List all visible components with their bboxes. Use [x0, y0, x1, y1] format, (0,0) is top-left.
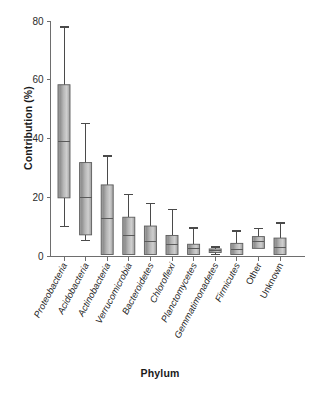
- box-body: [101, 185, 113, 255]
- box-body: [80, 163, 92, 235]
- boxplot-item: [166, 209, 178, 254]
- boxplot-item: [123, 194, 135, 254]
- boxplot-figure: Contribution (%) Phylum 020406080 Proteo…: [0, 0, 320, 393]
- y-tick-label: 80: [32, 16, 44, 27]
- caption-strip: [0, 383, 320, 393]
- boxplot-canvas: 020406080 ProteobacteriaAcidobacteriaAct…: [0, 0, 320, 393]
- boxplot-item: [188, 228, 200, 254]
- x-category-label: Other: [244, 261, 264, 286]
- boxplot-item: [144, 204, 156, 255]
- box-body: [144, 226, 156, 254]
- boxplot-item: [58, 27, 70, 227]
- y-tick-label: 0: [38, 251, 44, 262]
- boxplot-item: [274, 223, 286, 254]
- category-labels-group: ProteobacteriaAcidobacteriaActinobacteri…: [32, 260, 285, 339]
- box-body: [274, 238, 286, 254]
- axes-group: 020406080: [32, 16, 305, 262]
- boxplot-item: [101, 156, 113, 254]
- y-tick-label: 40: [32, 133, 44, 144]
- box-body: [188, 244, 200, 254]
- y-tick-label: 20: [32, 192, 44, 203]
- box-body: [123, 217, 135, 254]
- boxplot-item: [252, 228, 264, 248]
- boxplot-item: [231, 231, 243, 255]
- y-tick-label: 60: [32, 74, 44, 85]
- box-body: [252, 237, 264, 249]
- boxes-group: [58, 27, 286, 255]
- boxplot-item: [80, 123, 92, 241]
- boxplot-item: [209, 247, 221, 254]
